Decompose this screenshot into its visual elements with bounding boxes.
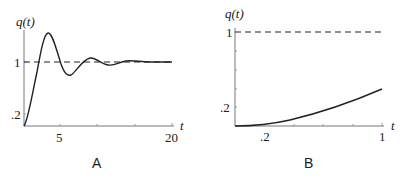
chart-b-xtick-0.2: .2: [260, 129, 270, 144]
chart-a-curve: [24, 33, 172, 126]
chart-b-ylabel: q(t): [225, 6, 244, 21]
chart-a-ytick-0.2: .2: [11, 107, 21, 122]
chart-b-curve: [235, 89, 382, 126]
chart-a-ylabel: q(t): [16, 14, 35, 29]
chart-a-ytick-1: 1: [14, 55, 21, 70]
chart-a-xtick-20: 20: [165, 130, 178, 145]
chart-a-xlabel: t: [180, 118, 184, 133]
chart-a-xtick-5: 5: [56, 130, 63, 145]
chart-b-ytick-1: 1: [226, 25, 233, 40]
chart-b-caption: B: [304, 155, 313, 171]
chart-b-xlabel: t: [391, 118, 395, 133]
chart-a-caption: A: [92, 155, 102, 171]
chart-a: q(t) 1 .2 5 20 t A: [11, 14, 184, 171]
chart-b: q(t) 1 .2 .2 1 t B: [220, 6, 395, 171]
chart-b-ytick-0.2: .2: [220, 100, 230, 115]
chart-b-xtick-1: 1: [379, 129, 386, 144]
figure: q(t) 1 .2 5 20 t A q(t): [0, 0, 411, 180]
